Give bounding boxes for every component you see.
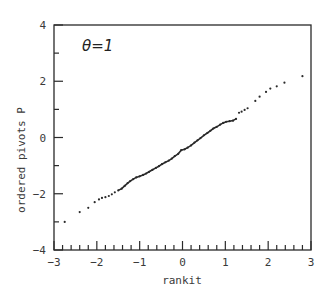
data-point	[104, 196, 106, 198]
data-point	[129, 180, 131, 182]
plot-frame	[54, 25, 311, 250]
data-point	[145, 172, 147, 174]
data-point	[229, 120, 231, 122]
data-point	[135, 176, 137, 178]
x-axis-label: rankit	[162, 274, 202, 287]
data-point	[203, 134, 205, 136]
data-point	[158, 165, 160, 167]
data-point	[164, 161, 166, 163]
data-point	[168, 159, 170, 161]
data-point	[171, 157, 173, 159]
y-axis-label: ordered pivots P	[15, 107, 28, 213]
data-point	[94, 201, 96, 203]
data-point	[269, 87, 271, 89]
data-point	[87, 207, 89, 209]
data-point	[177, 153, 179, 155]
x-tick-label: 1	[222, 256, 229, 269]
data-point	[241, 111, 243, 113]
data-point	[155, 167, 157, 169]
data-point	[283, 82, 285, 84]
data-point	[151, 169, 153, 171]
data-point	[216, 126, 218, 128]
y-tick-label: 0	[39, 132, 46, 145]
data-point	[184, 148, 186, 150]
data-point	[219, 123, 221, 125]
y-axis-ticks: −4−2024	[33, 19, 63, 257]
dense-point-trace	[118, 119, 236, 190]
data-point	[254, 100, 256, 102]
data-point	[117, 189, 119, 191]
data-point	[187, 147, 189, 149]
data-point	[111, 193, 113, 195]
data-point	[190, 144, 192, 146]
data-point	[132, 178, 134, 180]
data-point	[193, 141, 195, 143]
x-tick-label: 0	[179, 256, 186, 269]
data-point	[127, 182, 129, 184]
data-point	[225, 121, 227, 123]
y-tick-label: 2	[39, 75, 46, 88]
data-point	[209, 130, 211, 132]
data-point	[276, 85, 278, 87]
data-point	[199, 137, 201, 139]
data-point	[238, 112, 240, 114]
data-point	[180, 149, 182, 151]
data-point	[101, 197, 103, 199]
y-tick-label: 4	[39, 19, 46, 32]
data-point	[247, 107, 249, 109]
data-point	[114, 191, 116, 193]
data-point	[142, 174, 144, 176]
data-point	[244, 109, 246, 111]
data-point	[108, 195, 110, 197]
data-point	[124, 185, 126, 187]
data-point	[98, 198, 100, 200]
x-tick-label: −3	[47, 256, 60, 269]
qq-plot: −3−2−10123 −4−2024 θ=1 rankit ordered pi…	[0, 0, 331, 304]
data-point	[206, 132, 208, 134]
data-point	[79, 211, 81, 213]
data-point	[196, 139, 198, 141]
x-tick-label: 3	[308, 256, 315, 269]
theta-annotation: θ=1	[82, 37, 113, 55]
y-tick-label: −2	[33, 188, 46, 201]
data-point	[235, 118, 237, 120]
data-point	[161, 163, 163, 165]
data-point	[301, 75, 303, 77]
data-point	[232, 120, 234, 122]
data-point	[259, 96, 261, 98]
data-point	[222, 122, 224, 124]
data-point	[121, 188, 123, 190]
data-point	[148, 171, 150, 173]
x-axis-ticks: −3−2−10123	[47, 241, 314, 269]
data-point	[139, 175, 141, 177]
data-point	[174, 155, 176, 157]
data-points	[64, 75, 304, 223]
x-tick-label: −2	[90, 256, 103, 269]
y-tick-label: −4	[33, 244, 47, 257]
data-point	[64, 221, 66, 223]
x-tick-label: −1	[133, 256, 146, 269]
data-point	[265, 91, 267, 93]
x-tick-label: 2	[265, 256, 272, 269]
data-point	[212, 127, 214, 129]
